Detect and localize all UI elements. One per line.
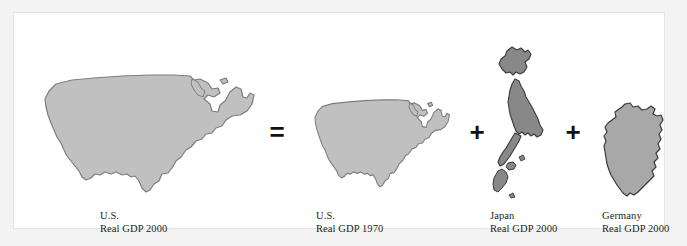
japan-map-icon — [488, 45, 548, 199]
figure-caption-us-2000: U.S. Real GDP 2000 — [100, 209, 167, 235]
figure-caption-japan-2000: Japan Real GDP 2000 — [490, 209, 557, 235]
figure-caption-germany-2000: Germany Real GDP 2000 — [602, 209, 669, 235]
caption-country: U.S. — [100, 209, 167, 222]
germany-map-icon — [599, 101, 667, 199]
caption-country: Germany — [602, 209, 669, 222]
figure-root: U.S. Real GDP 2000 = U.S. Real GDP 1970 … — [0, 0, 687, 246]
figure-panel: U.S. Real GDP 2000 = U.S. Real GDP 1970 … — [13, 12, 665, 229]
plus-operator-second: + — [559, 119, 587, 145]
united-states-map-icon — [313, 97, 452, 189]
caption-country: U.S. — [316, 209, 383, 222]
caption-country: Japan — [490, 209, 557, 222]
united-states-map-icon — [42, 71, 258, 195]
equals-operator: = — [263, 119, 291, 145]
caption-measure: Real GDP 1970 — [316, 222, 383, 235]
caption-measure: Real GDP 2000 — [490, 222, 557, 235]
figure-caption-us-1970: U.S. Real GDP 1970 — [316, 209, 383, 235]
caption-measure: Real GDP 2000 — [602, 222, 669, 235]
caption-measure: Real GDP 2000 — [100, 222, 167, 235]
plus-operator-first: + — [463, 119, 491, 145]
